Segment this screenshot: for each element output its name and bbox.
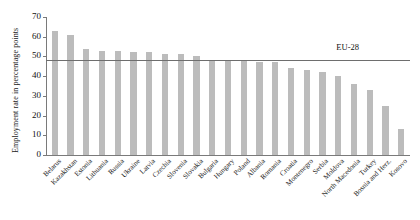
bar [162, 54, 168, 155]
y-tick-label: 20 [19, 111, 41, 120]
bar [367, 90, 373, 155]
bar [241, 60, 247, 155]
y-tick-label: 0 [19, 150, 41, 159]
bar [193, 56, 199, 155]
y-tick-label: 40 [19, 71, 41, 80]
y-tick-label: 10 [19, 130, 41, 139]
bar [256, 62, 262, 155]
bar [398, 129, 404, 155]
eu28-reference-line [46, 60, 410, 61]
bar [335, 76, 341, 155]
y-tick-label: 30 [19, 91, 41, 100]
y-axis-line [46, 17, 47, 156]
chart-figure: Employment rate in percentage points 010… [0, 0, 420, 220]
y-tick-label: 60 [19, 32, 41, 41]
bar [209, 60, 215, 155]
bar [67, 35, 73, 155]
y-tick-label: 50 [19, 51, 41, 60]
bar [351, 84, 357, 155]
bar [178, 54, 184, 155]
bar [52, 31, 58, 155]
bar [99, 51, 105, 155]
bar [288, 68, 294, 155]
bar [319, 72, 325, 155]
x-axis-line [46, 155, 410, 156]
bar [272, 62, 278, 155]
bar [225, 60, 231, 155]
bar [304, 70, 310, 155]
bar [130, 52, 136, 155]
bar [382, 106, 388, 155]
bar [146, 52, 152, 155]
bar [115, 51, 121, 155]
y-tick-label: 70 [19, 12, 41, 21]
bar [83, 49, 89, 155]
eu28-reference-label: EU-28 [336, 42, 359, 52]
